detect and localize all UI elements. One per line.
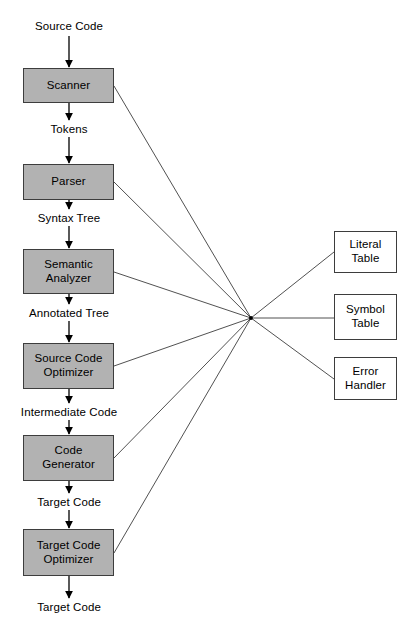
flow-label-tokens: Tokens <box>50 123 87 135</box>
link-scanner-hub <box>114 86 251 318</box>
flow-label-syntax-tree: Syntax Tree <box>38 212 100 224</box>
node-label-parser: Parser <box>49 175 87 189</box>
link-hub-literal-table <box>251 252 334 318</box>
node-label-code-generator: Code Generator <box>40 444 97 471</box>
flow-label-target-code-out: Target Code <box>37 601 101 613</box>
hub-right-connector-group <box>251 252 334 379</box>
link-parser-hub <box>114 182 251 318</box>
link-semantic-hub <box>114 272 251 318</box>
node-target-code-optimizer: Target Code Optimizer <box>23 529 114 576</box>
node-scanner: Scanner <box>23 68 114 103</box>
node-label-symbol-table: Symbol Table <box>344 303 387 330</box>
node-symbol-table: Symbol Table <box>334 294 397 340</box>
hub-dot <box>249 316 253 320</box>
flow-label-annotated-tree: Annotated Tree <box>29 307 109 319</box>
link-code-generator-hub <box>114 318 251 458</box>
hub-left-connector-group <box>114 86 251 553</box>
node-parser: Parser <box>23 164 114 200</box>
link-target-code-optimizer-hub <box>114 318 251 553</box>
hub-junction-point <box>249 316 253 320</box>
link-source-code-optimizer-hub <box>114 318 251 366</box>
compiler-phases-diagram: ScannerParserSemantic AnalyzerSource Cod… <box>0 0 415 641</box>
node-label-target-code-optimizer: Target Code Optimizer <box>35 539 103 566</box>
flow-label-intermediate-code: Intermediate Code <box>21 406 117 418</box>
node-label-source-code-optimizer: Source Code Optimizer <box>32 352 104 379</box>
node-label-semantic-analyzer: Semantic Analyzer <box>42 258 95 285</box>
flow-label-target-code-mid: Target Code <box>37 496 101 508</box>
node-source-code-optimizer: Source Code Optimizer <box>23 343 114 389</box>
node-literal-table: Literal Table <box>334 231 397 273</box>
flow-label-source-code-in: Source Code <box>35 20 103 32</box>
node-label-scanner: Scanner <box>45 79 93 93</box>
node-semantic-analyzer: Semantic Analyzer <box>23 249 114 294</box>
node-error-handler: Error Handler <box>334 357 397 400</box>
node-label-literal-table: Literal Table <box>347 238 383 265</box>
link-hub-error-handler <box>251 318 334 379</box>
node-code-generator: Code Generator <box>23 435 114 481</box>
node-label-error-handler: Error Handler <box>343 365 388 392</box>
